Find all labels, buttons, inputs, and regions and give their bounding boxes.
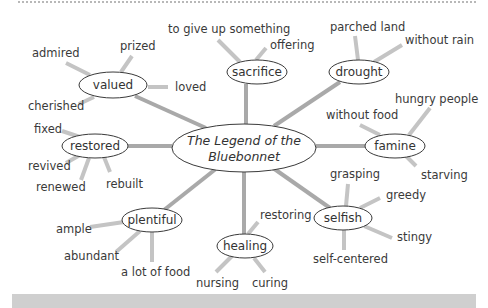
leaf-line-famine-1 (409, 108, 430, 135)
center-title-line2: Bluebonnet (208, 149, 281, 164)
node-drought: drought (329, 60, 389, 84)
center-node: The Legend of the Bluebonnet (172, 124, 316, 172)
node-label-sacrifice: sacrifice (232, 65, 282, 79)
leaf-line-drought-0 (355, 36, 358, 60)
leaf-word: offering (270, 38, 315, 52)
node-label-valued: valued (93, 78, 133, 92)
leaf-word: renewed (36, 180, 86, 194)
leaf-word: a lot of food (121, 265, 190, 279)
leaf-word: cherished (28, 99, 84, 113)
leaf-line-healing-2 (254, 258, 265, 272)
leaf-word: restoring (260, 208, 312, 222)
node-label-famine: famine (374, 139, 416, 153)
leaf-word: nursing (196, 276, 239, 290)
spoke-plentiful (164, 168, 217, 210)
leaf-word: curing (252, 276, 288, 290)
node-label-restored: restored (70, 139, 120, 153)
leaf-line-sacrifice-1 (256, 48, 266, 60)
node-label-drought: drought (335, 65, 382, 79)
node-selfish: selfish (314, 206, 372, 230)
leaf-word: parched land (330, 20, 405, 34)
leaf-line-plentiful-0 (90, 222, 124, 227)
leaf-line-healing-1 (216, 256, 232, 272)
leaf-word: abundant (64, 249, 120, 263)
leaf-line-famine-0 (360, 125, 380, 135)
node-label-plentiful: plentiful (127, 213, 176, 227)
leaf-line-selfish-1 (360, 198, 380, 208)
leaf-line-restored-2 (81, 158, 89, 180)
leaf-word: hungry people (395, 92, 478, 106)
center-title-line1: The Legend of the (187, 133, 301, 148)
leaf-line-valued-0 (66, 63, 90, 75)
node-plentiful: plentiful (122, 208, 182, 232)
leaf-line-plentiful-1 (116, 231, 140, 252)
node-label-selfish: selfish (324, 211, 362, 225)
leaf-line-famine-2 (406, 156, 416, 166)
leaf-word: to give up something (168, 22, 290, 36)
node-valued: valued (79, 72, 147, 98)
leaf-line-drought-1 (374, 45, 402, 62)
leaf-word: grasping (330, 167, 380, 181)
spoke-valued (135, 96, 206, 128)
leaf-line-restored-3 (104, 157, 110, 172)
leaf-word: prized (120, 39, 156, 53)
leaf-word: stingy (397, 230, 432, 244)
leaf-word: greedy (386, 188, 426, 202)
leaf-word: admired (32, 46, 80, 60)
leaf-word: revived (28, 159, 71, 173)
leaf-word: starving (421, 168, 468, 182)
leaf-line-valued-1 (121, 56, 132, 72)
spoke-selfish (273, 168, 330, 208)
leaf-line-selfish-2 (364, 226, 392, 238)
leaf-word: without food (326, 108, 398, 122)
leaf-word: without rain (405, 33, 474, 47)
leaf-word: loved (175, 80, 206, 94)
bottom-bar (12, 294, 476, 308)
leaf-word: rebuilt (106, 177, 144, 191)
leaf-line-sacrifice-0 (218, 40, 240, 62)
leaf-word: self-centered (313, 252, 388, 266)
leaf-line-healing-0 (248, 222, 258, 234)
leaf-line-selfish-0 (346, 184, 348, 206)
word-web-diagram: The Legend of the Bluebonnet valuedsacri… (0, 0, 488, 308)
node-label-healing: healing (223, 239, 267, 253)
leaf-word: fixed (34, 122, 62, 136)
node-sacrifice: sacrifice (227, 60, 287, 84)
node-healing: healing (217, 234, 273, 258)
node-restored: restored (62, 134, 128, 158)
node-famine: famine (365, 134, 425, 158)
leaf-word: ample (56, 222, 92, 236)
